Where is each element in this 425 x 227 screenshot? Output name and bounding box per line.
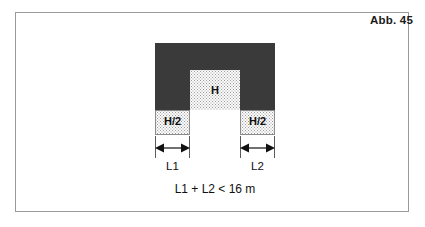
arrowhead-l1-right bbox=[181, 144, 190, 153]
figure-container: Abb. 45 H H/2 H/2 bbox=[0, 0, 425, 227]
diagram-drawing: H H/2 H/2 L1 L2 L1 + L2 < 16 m bbox=[0, 0, 425, 227]
dimension-label-l1: L1 bbox=[155, 160, 190, 172]
arrowhead-l2-right bbox=[266, 144, 275, 153]
dimension-label-l2: L2 bbox=[240, 160, 275, 172]
arrowhead-l2-left bbox=[240, 144, 249, 153]
formula-text: L1 + L2 < 16 m bbox=[120, 182, 310, 196]
arrowhead-l1-left bbox=[155, 144, 164, 153]
